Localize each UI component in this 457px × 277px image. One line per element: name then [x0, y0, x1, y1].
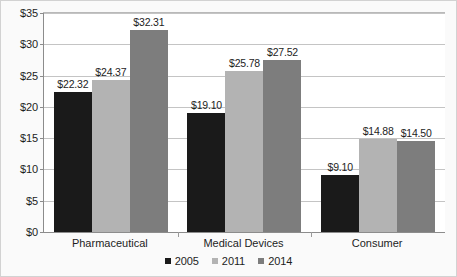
bar-slot: $9.10	[321, 13, 359, 232]
bar-row: $9.10$14.88$14.50	[311, 13, 445, 232]
bar-row: $22.32$24.37$32.31	[44, 13, 178, 232]
y-axis-label: $35	[20, 7, 38, 19]
bar-slot: $24.37	[92, 13, 130, 232]
bar-slot: $14.50	[397, 13, 435, 232]
legend-item-2014[interactable]: 2014	[258, 255, 292, 267]
bar-value-label: $25.78	[229, 57, 260, 69]
legend-label: 2011	[222, 255, 245, 267]
category-label: Consumer	[310, 237, 444, 249]
bar-value-label: $27.52	[267, 46, 298, 58]
bar-group: $9.10$14.88$14.50	[311, 13, 445, 232]
bar-slot: $25.78	[225, 13, 263, 232]
legend-swatch-icon	[212, 258, 218, 264]
legend-swatch-icon	[165, 258, 171, 264]
bar-row: $19.10$25.78$27.52	[178, 13, 312, 232]
bar-group: $19.10$25.78$27.52	[178, 13, 312, 232]
category-label: Medical Devices	[177, 237, 311, 249]
bar-chart: $0$5$10$15$20$25$30$35 $22.32$24.37$32.3…	[0, 0, 457, 277]
bar-value-label: $22.32	[57, 78, 88, 90]
y-axis-label: $0	[26, 226, 38, 238]
y-axis-label: $10	[20, 163, 38, 175]
legend-swatch-icon	[258, 258, 264, 264]
y-axis-tick	[40, 232, 44, 233]
bar[interactable]	[397, 141, 435, 232]
bar-slot: $19.10	[187, 13, 225, 232]
bar-value-label: $14.88	[363, 125, 394, 137]
bar[interactable]	[54, 92, 92, 232]
bar-value-label: $24.37	[95, 66, 126, 78]
bar[interactable]	[92, 80, 130, 232]
bar-group: $22.32$24.37$32.31	[44, 13, 178, 232]
bar-slot: $22.32	[54, 13, 92, 232]
y-axis-label: $5	[26, 195, 38, 207]
bar-slot: $32.31	[130, 13, 168, 232]
bar[interactable]	[263, 60, 301, 232]
y-axis-label: $20	[20, 101, 38, 113]
bar[interactable]	[187, 113, 225, 233]
bar-value-label: $14.50	[401, 127, 432, 139]
y-axis-label: $30	[20, 38, 38, 50]
bar-value-label: $19.10	[191, 99, 222, 111]
legend-item-2011[interactable]: 2011	[212, 255, 245, 267]
y-axis-label: $25	[20, 70, 38, 82]
y-axis-label: $15	[20, 132, 38, 144]
legend-label: 2005	[175, 255, 199, 267]
legend-item-2005[interactable]: 2005	[165, 255, 199, 267]
chart-legend: 200520112014	[1, 255, 456, 267]
bar[interactable]	[359, 139, 397, 232]
bar[interactable]	[321, 175, 359, 232]
legend-label: 2014	[268, 255, 292, 267]
bar[interactable]	[225, 71, 263, 232]
bar-value-label: $9.10	[328, 161, 353, 173]
bar-value-label: $32.31	[133, 16, 164, 28]
bar-slot: $27.52	[263, 13, 301, 232]
bar[interactable]	[130, 30, 168, 232]
bar-slot: $14.88	[359, 13, 397, 232]
plot-area: $0$5$10$15$20$25$30$35 $22.32$24.37$32.3…	[43, 13, 445, 233]
category-label: Pharmaceutical	[43, 237, 177, 249]
